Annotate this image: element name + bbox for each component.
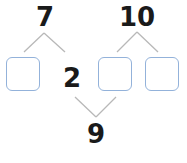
connector-7-left	[24, 33, 44, 52]
middle-number: 2	[63, 65, 81, 91]
answer-box-2[interactable]	[98, 57, 132, 91]
bottom-number: 9	[87, 121, 105, 147]
connector-10-left	[117, 32, 137, 52]
answer-box-3[interactable]	[145, 57, 179, 91]
answer-box-1[interactable]	[6, 57, 40, 91]
connector-10-right	[137, 32, 158, 52]
connector-9-right	[96, 97, 116, 117]
connector-7-right	[44, 33, 65, 52]
connector-9-left	[75, 97, 96, 117]
top-number-left: 7	[36, 4, 54, 30]
top-number-right: 10	[119, 4, 155, 30]
